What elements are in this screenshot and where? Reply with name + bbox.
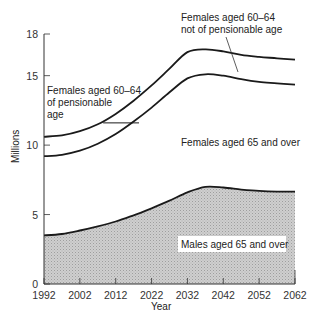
- label-not-pensionable-line1: Females aged 60–64: [181, 12, 275, 23]
- x-tick-label: 2022: [140, 289, 164, 301]
- y-tick-label: 18: [26, 28, 38, 40]
- label-not-pensionable-line2: not of pensionable age: [181, 24, 283, 35]
- y-tick-label: 10: [26, 139, 38, 151]
- y-tick-label: 15: [26, 70, 38, 82]
- x-tick-label: 2012: [104, 289, 128, 301]
- x-tick-label: 2042: [212, 289, 236, 301]
- label-females-65: Females aged 65 and over: [181, 137, 301, 148]
- y-axis-label: Millions: [10, 130, 21, 163]
- chart-canvas: 05101518 1992200220122022203220422052206…: [0, 0, 319, 326]
- x-tick-label: 1992: [32, 289, 56, 301]
- x-tick-label: 2052: [247, 289, 271, 301]
- y-tick-label: 5: [32, 209, 38, 221]
- label-pensionable-line1: Females aged 60–64: [47, 85, 141, 96]
- x-tick-label: 2002: [68, 289, 92, 301]
- x-axis-label: Year: [151, 301, 172, 312]
- x-tick-label: 2032: [176, 289, 200, 301]
- label-males-65: Males aged 65 and over: [181, 239, 289, 250]
- label-pensionable-line2: of pensionable: [47, 97, 112, 108]
- label-pensionable-line3: age: [47, 109, 64, 120]
- x-tick-label: 2062: [283, 289, 307, 301]
